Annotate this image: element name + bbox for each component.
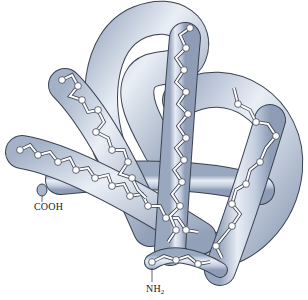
c-terminus-label: COOH bbox=[34, 201, 63, 212]
protein-diagram: COOH NH2 bbox=[0, 0, 308, 300]
protein-tube-illustration bbox=[0, 0, 308, 300]
nh-text: NH bbox=[146, 283, 161, 294]
n-terminus-label: NH2 bbox=[146, 283, 165, 296]
nh-subscript: 2 bbox=[161, 288, 165, 296]
cooh-text: COOH bbox=[34, 201, 63, 212]
